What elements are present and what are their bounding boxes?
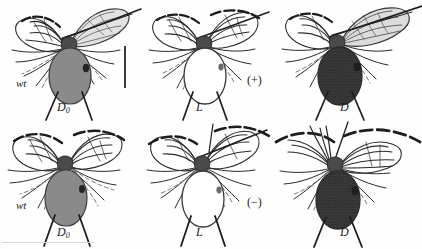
allele-label-l-plus: L	[196, 101, 203, 113]
left-wing	[13, 137, 62, 171]
fly-panel-l-plus	[141, 0, 274, 122]
allele-label-d0-plus: D0	[57, 101, 70, 115]
row-sign-plus: (+)	[247, 74, 262, 86]
abdomen	[182, 171, 224, 227]
allele-label-d-plus: D	[340, 101, 349, 113]
left-wing	[286, 16, 334, 49]
abdomen-spot	[83, 64, 89, 72]
right-wing	[205, 13, 258, 49]
left-wing	[153, 17, 201, 50]
fly-panel-wt-d0-plus	[0, 0, 141, 122]
abdomen-spot	[216, 187, 221, 194]
right-wing	[68, 134, 122, 169]
row-sign-minus: (−)	[247, 196, 262, 208]
fly-drawing	[12, 9, 141, 120]
genotype-label-wt-plus: wt	[16, 78, 26, 89]
abdomen	[318, 47, 362, 105]
abdomen-spot	[218, 64, 223, 71]
allele-label-l-minus: L	[196, 226, 203, 238]
abdomen	[316, 171, 360, 229]
left-wing	[16, 18, 66, 51]
scan-artifact-line	[2, 242, 94, 243]
abdomen	[49, 48, 91, 104]
figure-panel: wt D0	[0, 0, 422, 249]
allele-label-d0-minus: D0	[57, 226, 70, 240]
allele-label-d-minus: D	[340, 226, 349, 238]
scale-bar	[124, 46, 126, 88]
right-wing	[338, 142, 401, 173]
abdomen	[184, 48, 226, 104]
genotype-label-wt-minus: wt	[16, 200, 26, 211]
abdomen-spot	[352, 187, 359, 196]
abdomen-spot	[79, 185, 85, 193]
fly-panel-l-minus	[141, 122, 274, 249]
thorax	[194, 156, 209, 172]
right-wing	[70, 9, 129, 47]
fly-panel-wt-d0-minus	[0, 122, 141, 249]
abdomen-spot	[354, 63, 361, 72]
